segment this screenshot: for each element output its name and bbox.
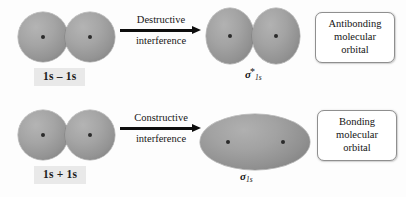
sigma-antibonding-label: σ*1s (245, 66, 262, 82)
atomic-orbital-1s-right (65, 110, 115, 160)
constructive-interference-arrow: Constructive interference (120, 112, 202, 156)
atomic-orbital-1s-right (65, 12, 115, 62)
atomic-orbital-1s-left (18, 110, 68, 160)
nucleus-dot (88, 35, 92, 39)
arrow-graphic (120, 124, 202, 132)
sigma-subscript: 1s (246, 175, 253, 184)
nucleus-dot (41, 133, 45, 137)
nucleus-dot (88, 133, 92, 137)
antibonding-molecular-orbital-shape (206, 8, 306, 64)
callout-line-2: molecular (321, 129, 393, 142)
nucleus-dot (226, 140, 230, 144)
sigma-subscript: 1s (255, 73, 262, 82)
arrow-shaft (120, 127, 193, 130)
arrow-graphic (120, 26, 202, 34)
callout-line-3: orbital (321, 142, 393, 155)
callout-line-1: Antibonding (319, 18, 391, 31)
callout-line-1: Bonding (321, 116, 393, 129)
combination-label-subtractive: 1s – 1s (34, 68, 85, 86)
arrow-label-bottom: interference (120, 35, 202, 46)
arrow-shaft (120, 29, 193, 32)
antibonding-row: 1s – 1s Destructive interference σ*1s An… (0, 0, 406, 98)
nucleus-dot (228, 34, 232, 38)
arrow-head-icon (192, 26, 201, 34)
antibonding-callout-box: Antibonding molecular orbital (315, 12, 395, 63)
nucleus-dot (274, 34, 278, 38)
reactant-atomic-orbitals (18, 12, 116, 62)
atomic-orbital-1s-left (18, 12, 68, 62)
antibonding-lobe-left (206, 8, 254, 64)
combination-label-additive: 1s + 1s (34, 166, 86, 184)
callout-line-3: orbital (319, 44, 391, 57)
molecular-orbital-diagram: 1s – 1s Destructive interference σ*1s An… (0, 0, 406, 197)
sigma-bonding-label: σ1s (240, 170, 253, 184)
bonding-molecular-orbital-shape (200, 114, 310, 170)
arrow-label-top: Destructive (120, 14, 202, 25)
bonding-callout-box: Bonding molecular orbital (317, 110, 397, 161)
reactant-atomic-orbitals (18, 110, 116, 160)
nucleus-dot (281, 140, 285, 144)
destructive-interference-arrow: Destructive interference (120, 14, 202, 58)
nucleus-dot (41, 35, 45, 39)
antibonding-lobe-right (252, 8, 300, 64)
arrow-head-icon (192, 124, 201, 132)
arrow-label-top: Constructive (120, 112, 202, 123)
callout-line-2: molecular (319, 31, 391, 44)
arrow-label-bottom: interference (120, 133, 202, 144)
